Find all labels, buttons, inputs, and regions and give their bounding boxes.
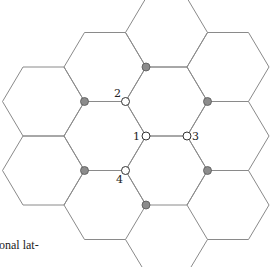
open-site-3	[183, 132, 191, 140]
lattice-edge	[191, 240, 208, 267]
lattice-edge	[126, 240, 143, 267]
hexagon-cell	[126, 0, 208, 67]
hexagon-cell	[3, 136, 85, 205]
site-label-2: 2	[114, 87, 121, 100]
shaded-site	[204, 167, 212, 175]
caption-fragment: onal lat-	[0, 238, 39, 253]
site-label-1: 1	[133, 130, 140, 143]
shaded-site	[142, 63, 150, 71]
shaded-site	[81, 98, 89, 106]
hexagon-cell	[126, 136, 208, 205]
site-label-3: 3	[192, 130, 199, 143]
shaded-site	[81, 167, 89, 175]
hexagon-cell	[64, 33, 146, 102]
hexagon-cell	[187, 33, 269, 102]
hexagonal-lattice-diagram: 1234	[0, 0, 270, 267]
shaded-site	[142, 201, 150, 209]
shaded-site	[204, 98, 212, 106]
hexagon-cell	[64, 171, 146, 240]
hexagon-cell	[126, 67, 208, 136]
hexagon-cell	[3, 67, 85, 136]
site-label-4: 4	[116, 173, 123, 186]
hexagon-cell	[187, 171, 269, 240]
open-site-1	[142, 132, 150, 140]
hexagon-cell	[187, 102, 269, 171]
open-site-2	[122, 98, 130, 106]
